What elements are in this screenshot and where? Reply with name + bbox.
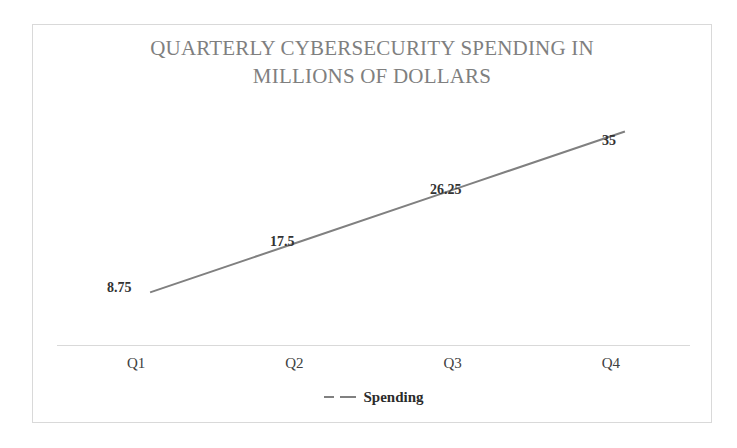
plot-area: 8.75 17.5 26.25 35: [57, 110, 690, 346]
data-label-q3: 26.25: [430, 182, 462, 198]
data-label-q1: 8.75: [107, 280, 132, 296]
x-axis-tick-labels: Q1 Q2 Q3 Q4: [57, 351, 690, 377]
data-label-q2: 17.5: [270, 234, 295, 250]
series-line-spending: [150, 132, 625, 293]
x-axis-line: [57, 345, 690, 346]
dashed-line-icon: [323, 391, 357, 403]
x-tick-label-q3: Q3: [374, 351, 532, 377]
legend-label-spending: Spending: [363, 388, 423, 406]
data-label-q4: 35: [602, 133, 616, 149]
legend-entry-spending[interactable]: Spending: [323, 388, 423, 406]
chart-legend: Spending: [57, 383, 690, 411]
x-tick-label-q2: Q2: [215, 351, 373, 377]
spending-line-series: [57, 110, 690, 346]
x-tick-label-q4: Q4: [532, 351, 690, 377]
x-tick-label-q1: Q1: [57, 351, 215, 377]
chart-title: QUARTERLY CYBERSECURITY SPENDING IN MILL…: [60, 34, 684, 90]
chart-container: QUARTERLY CYBERSECURITY SPENDING IN MILL…: [0, 0, 737, 448]
